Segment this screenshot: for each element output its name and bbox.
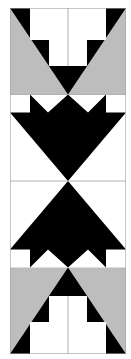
bottom-block [10,268,126,355]
top-block [10,8,126,95]
quilt-svg [10,8,126,354]
quilt-pattern [10,8,126,354]
lower-middle-block [10,181,126,268]
upper-middle-block [10,95,126,182]
